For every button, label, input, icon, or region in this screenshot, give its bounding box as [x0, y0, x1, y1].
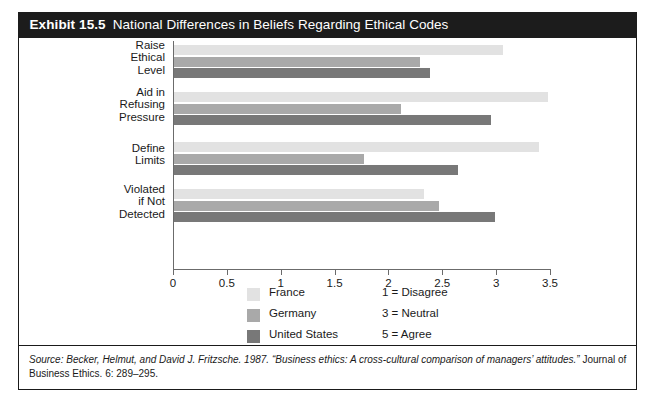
legend-row: Germany3 = Neutral: [247, 305, 547, 326]
bar: [174, 189, 424, 199]
category-label: Raise Ethical Level: [130, 39, 165, 77]
x-tick-mark: [335, 269, 336, 275]
legend-swatch: [247, 288, 260, 301]
x-tick-mark: [496, 269, 497, 275]
legend-swatch: [247, 330, 260, 343]
x-axis-line: [173, 269, 550, 270]
x-tick-mark: [227, 269, 228, 275]
bar: [174, 92, 548, 102]
source-text: Becker, Helmut, and David J. Fritzsche. …: [63, 354, 582, 365]
bar: [174, 201, 439, 211]
scale-note: 1 = Disagree: [382, 286, 448, 298]
category-axis-labels: Raise Ethical LevelAid in Refusing Press…: [19, 39, 173, 271]
bar: [174, 45, 503, 55]
legend-row: United States5 = Agree: [247, 326, 547, 347]
x-tick-mark: [550, 269, 551, 275]
category-label: Aid in Refusing Pressure: [119, 86, 165, 124]
bar: [174, 154, 364, 164]
scale-note: 5 = Agree: [382, 328, 432, 340]
bar: [174, 142, 539, 152]
bar: [174, 212, 495, 222]
bar: [174, 104, 401, 114]
x-tick-mark: [388, 269, 389, 275]
exhibit-title-bar: Exhibit 15.5 National Differences in Bel…: [18, 12, 637, 38]
category-label: Define Limits: [132, 142, 165, 167]
legend-swatch: [247, 309, 260, 322]
x-tick-mark: [281, 269, 282, 275]
source-divider: [18, 345, 637, 346]
x-tick-label: 0.5: [219, 277, 235, 289]
source-prefix: Source:: [29, 354, 63, 365]
scale-note: 3 = Neutral: [382, 307, 439, 319]
exhibit-number: Exhibit 15.5: [30, 17, 106, 32]
bar: [174, 115, 491, 125]
source-note: Source: Becker, Helmut, and David J. Fri…: [29, 353, 629, 380]
legend-row: France1 = Disagree: [247, 284, 547, 305]
bar: [174, 165, 458, 175]
exhibit-frame: Exhibit 15.5 National Differences in Bel…: [18, 12, 637, 390]
bar: [174, 57, 420, 67]
source-citation: 6: 289–295.: [102, 368, 158, 379]
x-tick-label: 0: [170, 277, 176, 289]
x-tick-mark: [442, 269, 443, 275]
legend-label: France: [269, 286, 305, 298]
category-label: Violated if Not Detected: [119, 183, 165, 221]
x-tick-mark: [173, 269, 174, 275]
legend-label: United States: [269, 328, 338, 340]
legend-label: Germany: [269, 307, 316, 319]
bar: [174, 68, 430, 78]
exhibit-title: National Differences in Beliefs Regardin…: [113, 17, 449, 32]
chart-legend: France1 = DisagreeGermany3 = NeutralUnit…: [247, 284, 547, 347]
